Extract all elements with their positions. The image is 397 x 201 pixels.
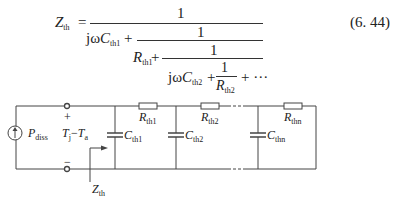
resistor-th1-label: Rth1 [139, 111, 157, 123]
source-label: Pdiss [28, 127, 48, 139]
thermal-circuit-diagram [0, 0, 397, 201]
impedance-label: Zth [92, 183, 105, 195]
capacitor-th1-label: Cth1 [124, 129, 142, 141]
capacitor-th2-label: Cth2 [185, 129, 203, 141]
resistor-th2-icon [201, 103, 219, 109]
terminal-plus-icon [65, 104, 70, 109]
resistor-th1-icon [139, 103, 157, 109]
capacitor-thn-label: Cthn [267, 129, 285, 141]
minus-terminal-label: − [64, 156, 71, 168]
temperature-difference-label: Tj−Ta [62, 127, 88, 139]
plus-terminal-label: + [64, 111, 71, 123]
resistor-th2-label: Rth2 [201, 111, 219, 123]
resistor-thn-label: Rthn [284, 111, 302, 123]
resistor-thn-icon [284, 103, 302, 109]
impedance-arrow-icon [90, 148, 104, 182]
